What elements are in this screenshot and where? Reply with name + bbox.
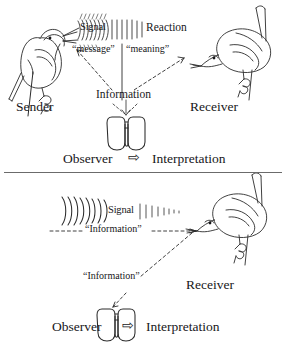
bottom-panel-drawing (0, 173, 288, 345)
figure-root: Signal Reaction “message” “meaning” Info… (0, 0, 288, 345)
information-label-lower: “Information” (83, 271, 140, 281)
interpretation-label-top: Interpretation (152, 152, 225, 166)
observer-label-top: Observer (63, 152, 112, 166)
signal-label-top: Signal (80, 22, 106, 33)
information-label-upper: “Information” (85, 224, 142, 234)
meaning-arrowhead (178, 57, 184, 63)
signal-label-bottom: Signal (108, 205, 134, 216)
observer-information-panel: Signal “Information” “Information” Recei… (0, 173, 288, 345)
meaning-information-arrow (134, 58, 184, 90)
receiver-information-arrow (140, 233, 192, 277)
message-information-arrow (77, 50, 112, 90)
receiver-label-bottom: Receiver (186, 278, 234, 292)
information-label-top: Information (96, 89, 151, 101)
sender-label: Sender (16, 100, 54, 114)
observer-interpretation-arrow-top: ⇨ (128, 151, 140, 165)
meaning-label: “meaning” (126, 44, 169, 54)
information-observer-arrows (113, 104, 137, 114)
sound-wave-arcs-icon (62, 197, 107, 225)
bird-listening-icon (186, 173, 267, 265)
information-observer-arrow (113, 293, 126, 307)
reaction-label: Reaction (146, 22, 187, 34)
observer-interpretation-arrow-bottom: ⇨ (122, 319, 134, 333)
top-panel-drawing (0, 0, 288, 172)
binoculars-icon (107, 117, 145, 150)
bird-listening-icon (190, 6, 271, 100)
interpretation-label-bottom: Interpretation (146, 320, 219, 334)
dyadic-communication-panel: Signal Reaction “message” “meaning” Info… (0, 0, 288, 172)
observer-label-bottom: Observer (52, 320, 101, 334)
message-label: “message” (72, 44, 115, 54)
receiver-label-top: Receiver (190, 100, 238, 114)
sound-wave-fade (140, 204, 179, 219)
